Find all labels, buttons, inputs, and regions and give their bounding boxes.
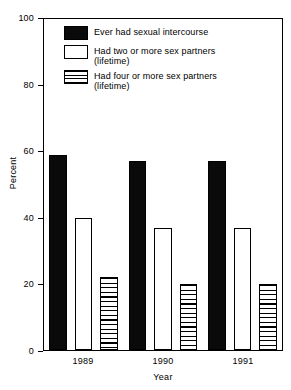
y-tick-label-20: 20 (6, 279, 34, 289)
legend-label-3-line2: (lifetime) (94, 81, 217, 91)
y-tick-label-0: 0 (6, 346, 34, 356)
bar-1989-series2 (75, 218, 93, 350)
x-axis-title: Year (43, 372, 283, 382)
bar-1991-series1 (208, 161, 226, 350)
legend-label-2-line2: (lifetime) (94, 56, 215, 66)
y-tick-label-40: 40 (6, 213, 34, 223)
legend-label-3: Had four or more sex partners (lifetime) (94, 70, 217, 91)
legend-label-1: Ever had sexual intercourse (94, 26, 208, 37)
y-tick-mark-0 (38, 351, 43, 352)
bar-1990-series2 (154, 228, 172, 351)
bar-1991-series3 (259, 284, 277, 350)
bar-1990-series1 (129, 161, 147, 350)
legend-label-1-line1: Ever had sexual intercourse (94, 27, 208, 37)
legend-label-2: Had two or more sex partners (lifetime) (94, 45, 215, 66)
x-tick-label-1990: 1990 (133, 356, 193, 366)
legend: Ever had sexual intercourse Had two or m… (64, 26, 274, 95)
legend-item-2: Had two or more sex partners (lifetime) (64, 45, 274, 66)
x-tick-label-1989: 1989 (53, 356, 113, 366)
legend-swatch-hatch-icon (64, 70, 88, 84)
legend-label-3-line1: Had four or more sex partners (94, 71, 217, 81)
plot-area: Ever had sexual intercourse Had two or m… (43, 18, 283, 351)
bar-1989-series1 (49, 155, 67, 350)
legend-label-2-line1: Had two or more sex partners (94, 46, 215, 56)
y-tick-label-100: 100 (6, 13, 34, 23)
bar-1991-series2 (234, 228, 252, 351)
legend-swatch-solid-icon (64, 26, 88, 40)
bar-1990-series3 (180, 284, 198, 350)
bar-1989-series3 (100, 277, 118, 350)
legend-swatch-open-icon (64, 45, 88, 59)
x-tick-label-1991: 1991 (213, 356, 273, 366)
legend-item-3: Had four or more sex partners (lifetime) (64, 70, 274, 91)
legend-item-1: Ever had sexual intercourse (64, 26, 274, 41)
bar-chart-figure: Percent 100 80 60 40 20 0 Ever had sexua… (0, 0, 291, 390)
y-tick-label-60: 60 (6, 146, 34, 156)
y-tick-label-80: 80 (6, 80, 34, 90)
